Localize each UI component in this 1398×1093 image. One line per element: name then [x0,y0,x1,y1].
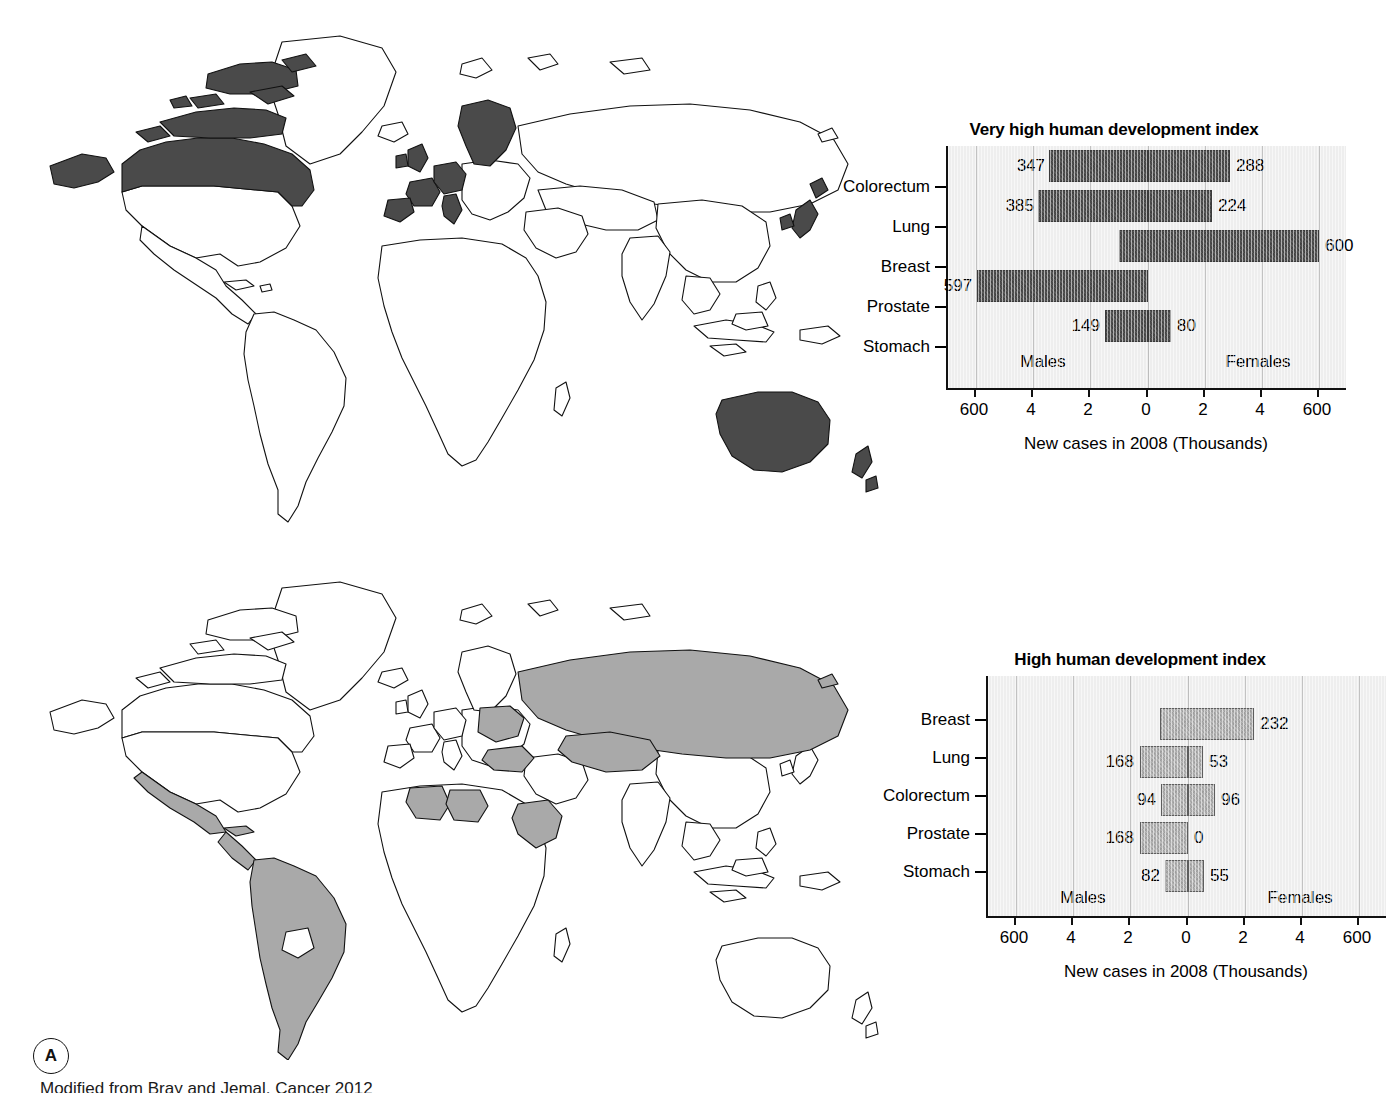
x-tick [1014,916,1016,925]
males-label: Males [1060,888,1105,908]
x-tick [1317,388,1319,397]
value-colorectum-male: 347 [1003,156,1045,176]
y-label-prostate: Prostate [880,815,986,853]
gridline [976,146,977,388]
chart-title: Very high human development index [840,120,1388,140]
high-hdi-chart: High human development index Breast Lung… [880,650,1398,916]
gridline [1302,676,1303,916]
value-stomach-male: 149 [1058,316,1100,336]
x-tick-label: 600 [1303,400,1331,420]
females-label: Females [1267,888,1332,908]
value-prostate-male: 168 [1092,828,1134,848]
figure-caption: Modified from Bray and Jemal. Cancer 201… [0,1079,1398,1093]
bar-stomach-female [1148,310,1171,342]
bar-lung-male [1140,746,1188,778]
value-lung-female: 53 [1209,752,1228,772]
x-tick-label: 4 [1295,928,1304,948]
tick-dash-icon [975,871,986,873]
bar-lung-female [1148,190,1212,222]
x-tick-label: 600 [1343,928,1371,948]
y-label-stomach: Stomach [880,853,986,891]
value-lung-male: 385 [992,196,1034,216]
value-lung-female: 224 [1218,196,1246,216]
gridline [1016,676,1017,916]
very-high-hdi-chart: Very high human development index Colore… [840,120,1388,388]
y-axis-labels: Colorectum Lung Breast Prostate Stomach [840,146,946,388]
value-stomach-female: 55 [1210,866,1229,886]
gridline-zero [1148,146,1149,388]
bar-lung-male [1038,190,1148,222]
tick-dash-icon [935,306,946,308]
y-label-lung: Lung [880,739,986,777]
bar-colorectum-male [1161,784,1188,816]
gridline [1205,146,1206,388]
very-high-hdi-map [10,14,890,534]
gridline [1090,146,1091,388]
bar-colorectum-male [1049,150,1148,182]
gridline [1319,146,1320,388]
bar-stomach-male [1165,860,1188,892]
females-label: Females [1225,352,1290,372]
x-tick [1243,916,1245,925]
x-tick-label: 4 [1255,400,1264,420]
x-axis-title: New cases in 2008 (Thousands) [946,434,1346,454]
x-tick-label: 0 [1181,928,1190,948]
bar-colorectum-female [1188,784,1215,816]
region-scandinavia [458,100,516,166]
x-axis-title: New cases in 2008 (Thousands) [986,962,1386,982]
x-tick [1146,388,1148,397]
x-tick [1071,916,1073,925]
x-tick [1186,916,1188,925]
males-label: Males [1020,352,1065,372]
gridline [1359,676,1360,916]
x-tick-label: 2 [1198,400,1207,420]
high-hdi-map [10,560,890,1060]
x-tick [1300,916,1302,925]
bar-prostate-male [1140,822,1188,854]
value-colorectum-male: 94 [1114,790,1156,810]
region-alaska [50,154,114,188]
bar-breast-female [1160,708,1254,740]
y-label-lung: Lung [840,207,946,247]
region-ireland [396,154,408,168]
x-tick-label: 4 [1026,400,1035,420]
tick-dash-icon [935,226,946,228]
x-tick [1088,388,1090,397]
y-axis-labels: Breast Lung Colorectum Prostate Stomach [880,676,986,916]
x-tick [974,388,976,397]
value-prostate-male: 597 [930,276,972,296]
x-tick-label: 0 [1141,400,1150,420]
value-lung-male: 168 [1092,752,1134,772]
gridline [1073,676,1074,916]
bar-lung-female [1188,746,1203,778]
x-tick [1128,916,1130,925]
x-tick [1031,388,1033,397]
tick-dash-icon [975,757,986,759]
region-south-america [250,858,346,1060]
value-breast-female: 600 [1325,236,1353,256]
panel-label-a: A [33,1038,69,1074]
x-tick-label: 600 [1000,928,1028,948]
x-tick [1203,388,1205,397]
chart-title: High human development index [880,650,1398,670]
tick-dash-icon [975,795,986,797]
x-tick-label: 4 [1066,928,1075,948]
plot-area: 347 288 385 224 600 597 149 80 Males Fem… [946,146,1346,388]
value-stomach-male: 82 [1118,866,1160,886]
x-tick-label: 600 [960,400,988,420]
x-tick [1357,916,1359,925]
region-italy [442,194,462,224]
tick-dash-icon [935,266,946,268]
region-australia [716,392,830,472]
y-label-breast: Breast [880,701,986,739]
x-tick-label: 2 [1083,400,1092,420]
plot-area: 232 168 53 94 96 168 0 82 55 Males Femal… [986,676,1386,916]
tick-dash-icon [935,346,946,348]
region-new-zealand [852,446,872,478]
value-colorectum-female: 288 [1236,156,1264,176]
value-breast-female: 232 [1260,714,1288,734]
tick-dash-icon [975,833,986,835]
x-tick-label: 2 [1123,928,1132,948]
tick-dash-icon [975,719,986,721]
bar-colorectum-female [1148,150,1230,182]
